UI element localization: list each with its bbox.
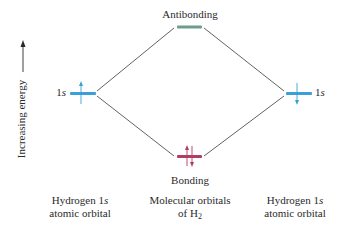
connector-left-to-bonding <box>97 96 174 156</box>
connector-lines <box>97 28 284 156</box>
right-1s-label: 1s <box>315 86 331 99</box>
center-column-caption: Molecular orbitals of H2 <box>142 194 238 220</box>
left-caption-line1: Hydrogen 1s <box>40 194 120 207</box>
antibonding-level <box>177 26 202 29</box>
bonding-level <box>177 145 202 167</box>
right-column-caption: Hydrogen 1s atomic orbital <box>255 194 335 220</box>
arrow-up-icon <box>21 40 26 47</box>
right-1s-level <box>286 83 312 105</box>
left-caption-line2: atomic orbital <box>40 207 120 220</box>
energy-axis-arrow <box>21 40 26 72</box>
center-caption-line1: Molecular orbitals <box>142 194 238 207</box>
connector-antibonding-to-right <box>204 28 284 91</box>
energy-axis-label: Increasing energy <box>14 78 28 160</box>
left-column-caption: Hydrogen 1s atomic orbital <box>40 194 120 220</box>
antibonding-label: Antibonding <box>160 8 220 21</box>
center-caption-line2: of H2 <box>142 207 238 220</box>
connector-bonding-to-right <box>204 96 284 156</box>
connector-left-to-antibonding <box>97 28 174 91</box>
right-caption-line1: Hydrogen 1s <box>255 194 335 207</box>
energy-axis-text: Increasing energy <box>15 80 27 158</box>
bonding-label: Bonding <box>160 174 220 187</box>
left-1s-level <box>70 81 96 104</box>
left-1s-label: 1s <box>50 86 66 99</box>
right-caption-line2: atomic orbital <box>255 207 335 220</box>
